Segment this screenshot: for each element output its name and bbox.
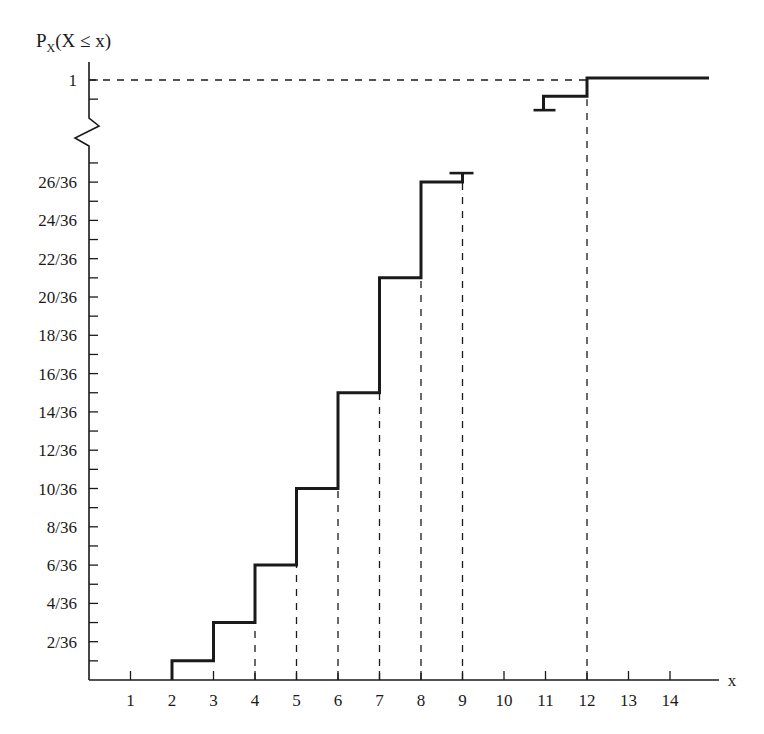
y-tick-label: 6/36 <box>47 556 77 575</box>
y-tick-label: 26/36 <box>38 173 77 192</box>
x-axis-title: x <box>728 671 737 690</box>
y-tick-label: 24/36 <box>38 211 77 230</box>
x-tick-label: 1 <box>126 691 135 710</box>
y-tick-label: 18/36 <box>38 326 77 345</box>
y-tick-label: 4/36 <box>47 594 77 613</box>
x-tick-label: 4 <box>251 691 260 710</box>
x-tick-label: 5 <box>292 691 301 710</box>
y-axis-line <box>75 62 99 680</box>
y-tick-label: 20/36 <box>38 288 77 307</box>
step-line-upper <box>544 78 710 110</box>
y-tick-label: 22/36 <box>38 250 77 269</box>
step-series <box>172 78 709 680</box>
y-tick-label: 14/36 <box>38 403 77 422</box>
x-tick-label: 10 <box>496 691 513 710</box>
tick-labels: 2/364/366/368/3610/3612/3614/3616/3618/3… <box>38 71 736 710</box>
x-tick-label: 2 <box>168 691 177 710</box>
x-tick-label: 9 <box>458 691 467 710</box>
step-line-lower <box>172 173 463 680</box>
y-tick-label: 8/36 <box>47 518 77 537</box>
x-tick-label: 8 <box>417 691 426 710</box>
x-tick-label: 6 <box>334 691 343 710</box>
cdf-step-chart: 2/364/366/368/3610/3612/3614/3616/3618/3… <box>0 0 764 734</box>
x-tick-label: 7 <box>375 691 384 710</box>
x-tick-label: 13 <box>620 691 637 710</box>
y-tick-label: 2/36 <box>47 633 77 652</box>
dashed-guides <box>89 80 587 680</box>
y-tick-label: 16/36 <box>38 365 77 384</box>
y-tick-label: 10/36 <box>38 480 77 499</box>
x-tick-label: 11 <box>537 691 553 710</box>
x-tick-label: 12 <box>579 691 596 710</box>
axes <box>75 62 719 680</box>
x-tick-label: 3 <box>209 691 218 710</box>
y-tick-label: 12/36 <box>38 441 77 460</box>
x-tick-label: 14 <box>662 691 680 710</box>
y-tick-label-one: 1 <box>69 71 78 90</box>
